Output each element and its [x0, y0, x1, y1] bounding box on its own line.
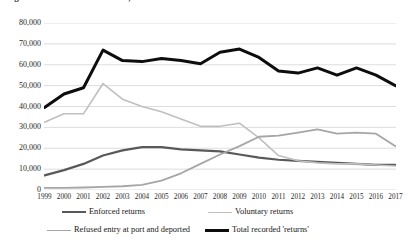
x-axis: 1999200020012002200320042005200620072008…	[44, 193, 396, 205]
legend-swatch-refused-entry	[47, 230, 71, 231]
legend-label-voluntary-returns: Voluntary returns	[235, 207, 293, 217]
legend-label-total-returns: Total recorded 'returns'	[232, 225, 309, 235]
gridlines	[44, 23, 396, 190]
legend-swatch-voluntary-returns	[208, 212, 232, 213]
y-axis-tick-label: 70,000	[1, 40, 41, 48]
chart-title-strip: Figure 1: Returns from the UK, 1999-2017	[0, 0, 408, 9]
legend-label-refused-entry: Refused entry at port and deported	[74, 225, 190, 235]
y-axis-tick-label: 60,000	[1, 61, 41, 69]
chart-figure: Figure 1: Returns from the UK, 1999-2017…	[0, 0, 408, 246]
y-axis-tick-label: 10,000	[1, 165, 41, 173]
legend-item-enforced-returns: Enforced returns	[62, 207, 145, 217]
legend-item-voluntary-returns: Voluntary returns	[208, 207, 293, 217]
chart-canvas	[44, 23, 396, 190]
series-line	[45, 147, 396, 175]
y-axis-tick-label: 80,000	[1, 19, 41, 27]
legend-label-enforced-returns: Enforced returns	[89, 207, 145, 217]
y-axis: 010,00020,00030,00040,00050,00060,00070,…	[0, 0, 41, 220]
legend-row-2: Refused entry at port and deported Total…	[0, 225, 408, 241]
x-axis-tick-label: 2017	[381, 193, 408, 202]
legend-item-refused-entry: Refused entry at port and deported	[47, 225, 190, 235]
series-line	[45, 49, 396, 107]
chart-legend: Enforced returns Voluntary returns Refus…	[0, 207, 408, 246]
plot-area	[44, 23, 396, 190]
legend-row-1: Enforced returns Voluntary returns	[0, 207, 408, 223]
y-axis-tick-label: 30,000	[1, 123, 41, 131]
y-axis-tick-label: 40,000	[1, 103, 41, 111]
legend-swatch-total-returns	[205, 229, 229, 232]
series-lines	[45, 49, 396, 188]
legend-swatch-enforced-returns	[62, 211, 86, 213]
y-axis-tick-label: 50,000	[1, 82, 41, 90]
legend-item-total-returns: Total recorded 'returns'	[205, 225, 309, 235]
y-axis-tick-label: 20,000	[1, 144, 41, 152]
